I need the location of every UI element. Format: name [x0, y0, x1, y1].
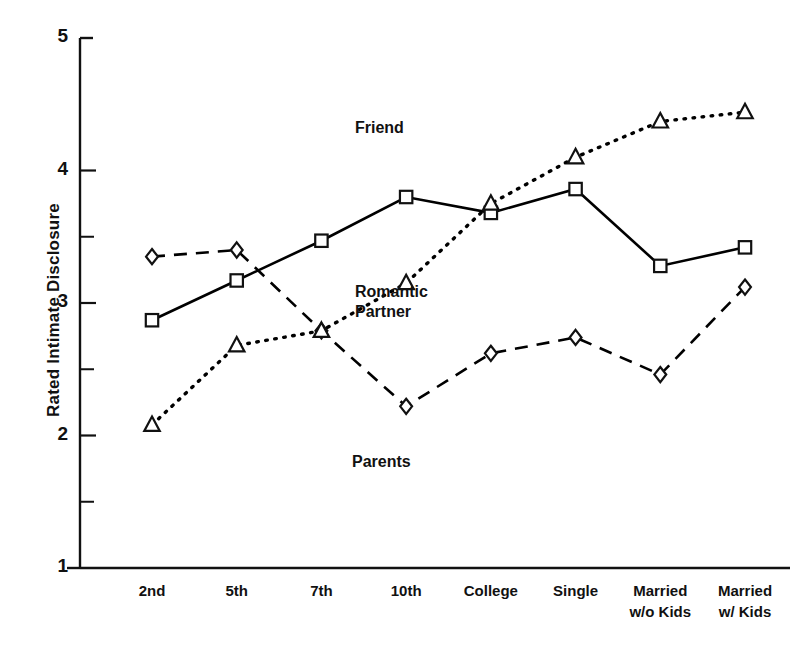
data-series-group	[144, 104, 752, 431]
data-point-marker	[146, 249, 158, 264]
plot-area	[0, 0, 797, 657]
data-point-marker	[569, 183, 581, 195]
series-annotation-parents: Parents	[352, 452, 411, 472]
data-point-marker	[229, 337, 244, 351]
series-annotation-romantic-partner: Romantic Partner	[355, 282, 428, 322]
y-tick-label: 5	[38, 25, 68, 47]
data-point-marker	[400, 191, 412, 203]
data-point-marker	[146, 314, 158, 326]
y-tick-marks	[67, 171, 96, 569]
x-tick-label: Married w/ Kids	[695, 580, 795, 622]
data-point-marker	[654, 260, 666, 272]
data-point-marker	[231, 274, 243, 286]
series-annotation-friend: Friend	[355, 118, 404, 138]
data-point-marker	[570, 330, 582, 345]
data-point-marker	[737, 104, 752, 118]
y-tick-label: 2	[38, 423, 68, 445]
data-point-marker	[739, 241, 751, 253]
y-tick-label: 1	[38, 555, 68, 577]
chart-figure: Rated Intimate Disclosure 54321 2nd5th7t…	[0, 0, 797, 657]
y-tick-label: 4	[38, 158, 68, 180]
y-tick-label: 3	[38, 290, 68, 312]
data-point-marker	[485, 346, 497, 361]
data-point-marker	[315, 235, 327, 247]
